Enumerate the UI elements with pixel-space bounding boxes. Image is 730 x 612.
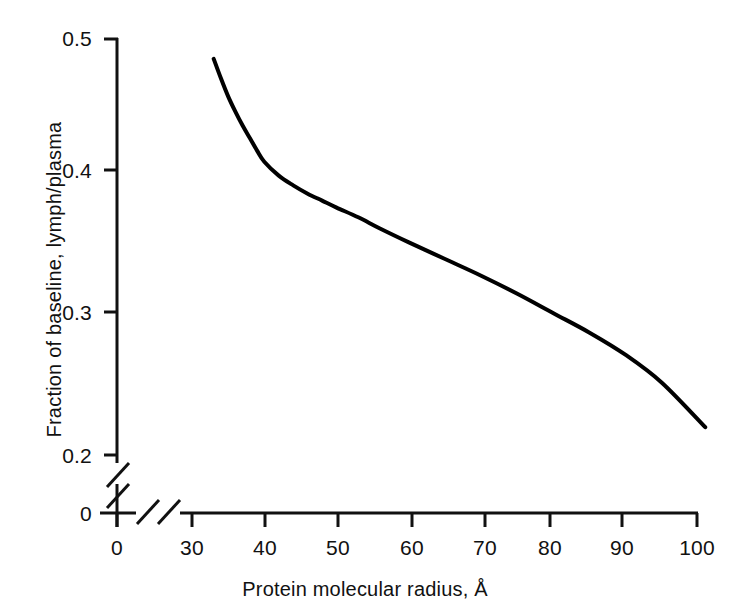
data-series-line	[214, 59, 706, 427]
x-tick-label-60: 60	[400, 537, 424, 558]
chart-figure: 0.5 0.4 0.3 0.2 0 0 30 40 50 60 70 80 90…	[0, 0, 730, 612]
x-tick-label-40: 40	[253, 537, 277, 558]
y-tick-label-0: 0	[36, 503, 92, 524]
y-axis-title: Fraction of baseline, lymph/plasma	[43, 80, 66, 480]
plot-area	[0, 0, 730, 612]
x-tick-label-30: 30	[180, 537, 204, 558]
x-tick-label-70: 70	[473, 537, 497, 558]
x-axis-title: Protein molecular radius, Å	[0, 578, 730, 601]
x-tick-label-50: 50	[326, 537, 350, 558]
x-tick-label-0: 0	[111, 537, 123, 558]
x-tick-label-90: 90	[610, 537, 634, 558]
x-tick-label-80: 80	[538, 537, 562, 558]
x-tick-label-100: 100	[679, 537, 715, 558]
y-axis-break-slash-1	[107, 463, 129, 487]
y-tick-label-0.5: 0.5	[36, 28, 92, 49]
